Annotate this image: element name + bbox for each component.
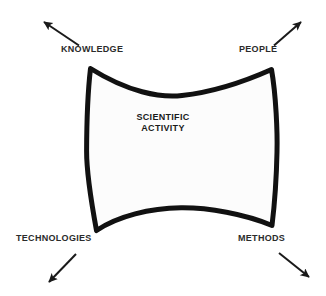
arrow-methods-icon (279, 253, 309, 277)
corner-label-knowledge: KNOWLEDGE (61, 45, 123, 54)
scientific-activity-shape (87, 69, 277, 231)
center-label-line1: SCIENTIFIC (0, 112, 326, 123)
corner-label-methods: METHODS (238, 234, 285, 243)
corner-label-technologies: TECHNOLOGIES (16, 234, 92, 243)
arrow-knowledge-icon (44, 22, 79, 46)
center-label: SCIENTIFIC ACTIVITY (0, 112, 326, 134)
arrow-technologies-icon (49, 254, 76, 282)
diagram-canvas: KNOWLEDGE PEOPLE TECHNOLOGIES METHODS SC… (0, 0, 326, 296)
center-label-line2: ACTIVITY (0, 123, 326, 134)
arrow-people-icon (274, 22, 301, 46)
corner-label-people: PEOPLE (239, 45, 277, 54)
